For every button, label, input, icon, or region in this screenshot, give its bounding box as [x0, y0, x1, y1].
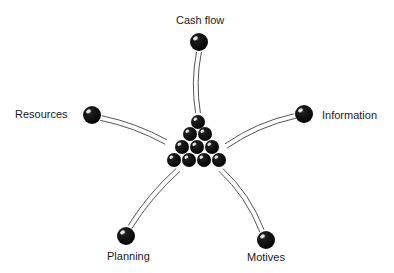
hub-ball: [197, 153, 211, 167]
label-information: Information: [322, 109, 377, 122]
stick-information: [227, 118, 296, 148]
label-resources: Resources: [15, 108, 68, 121]
hub-ball: [191, 115, 205, 129]
hub-ball: [183, 127, 197, 141]
hub-ball: [175, 140, 189, 154]
stick-cash-flow: [193, 52, 196, 113]
hub-ball: [190, 140, 204, 154]
ball-cluster: [167, 115, 226, 167]
hub-ball: [167, 153, 181, 167]
stick-information: [225, 114, 294, 144]
ball-motives: [257, 231, 275, 249]
stick-resources: [102, 116, 167, 140]
ball-cash-flow: [190, 33, 208, 51]
stick-cash-flow: [198, 52, 201, 113]
ball-planning: [117, 227, 135, 245]
label-motives: Motives: [247, 251, 285, 264]
diagram-canvas: [0, 0, 394, 273]
hub-ball: [182, 153, 196, 167]
hub-ball: [205, 140, 219, 154]
ball-information: [295, 105, 313, 123]
label-planning: Planning: [107, 250, 150, 263]
ball-resources: [83, 106, 101, 124]
stick-planning: [132, 172, 180, 229]
stick-planning: [128, 168, 176, 225]
label-cash-flow: Cash flow: [176, 14, 224, 27]
hub-ball: [198, 127, 212, 141]
stick-motives: [223, 169, 264, 230]
hub-ball: [212, 153, 226, 167]
stick-motives: [219, 171, 260, 232]
